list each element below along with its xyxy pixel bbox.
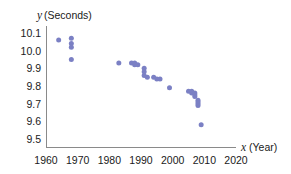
y-tick-label: 10.1 [21, 27, 42, 39]
x-tick-label: 2000 [161, 154, 185, 166]
data-point [116, 61, 121, 66]
data-point [56, 38, 61, 43]
y-axis-title: y (Seconds) [36, 9, 92, 22]
data-point [199, 122, 204, 127]
chart-canvas: 10.110.09.99.89.79.69.5 1960197019801990… [0, 0, 291, 174]
y-axis-tick-labels: 10.110.09.99.89.79.69.5 [21, 27, 42, 145]
data-point [69, 57, 74, 62]
data-points-group [56, 36, 204, 128]
data-point [158, 76, 163, 81]
data-point [69, 45, 74, 50]
x-axis-title: x (Year) [240, 141, 277, 153]
y-tick-label: 9.8 [26, 80, 41, 92]
x-axis-title-unit: (Year) [249, 141, 277, 153]
data-point [69, 36, 74, 41]
y-axis-title-unit: (Seconds) [44, 9, 92, 21]
x-tick-label: 1990 [129, 154, 153, 166]
data-point [167, 85, 172, 90]
axes-group [46, 26, 236, 147]
y-tick-label: 9.9 [26, 62, 41, 74]
y-tick-label: 10.0 [21, 45, 42, 57]
y-tick-label: 9.5 [26, 133, 41, 145]
scatter-chart-figure: 10.110.09.99.89.79.69.5 1960197019801990… [0, 0, 291, 174]
data-point [142, 69, 147, 74]
y-tick-label: 9.6 [26, 115, 41, 127]
y-axis-title-variable: y [36, 9, 43, 22]
x-tick-label: 1980 [98, 154, 122, 166]
x-tick-label: 2020 [224, 154, 248, 166]
data-point [196, 103, 201, 108]
y-tick-label: 9.7 [26, 98, 41, 110]
x-tick-label: 1960 [34, 154, 58, 166]
x-axis-title-variable: x [240, 141, 247, 153]
data-point [135, 62, 140, 67]
x-axis-tick-labels: 1960197019801990200020102020 [34, 154, 248, 166]
data-point [145, 75, 150, 80]
x-tick-label: 2010 [193, 154, 217, 166]
x-tick-label: 1970 [66, 154, 90, 166]
